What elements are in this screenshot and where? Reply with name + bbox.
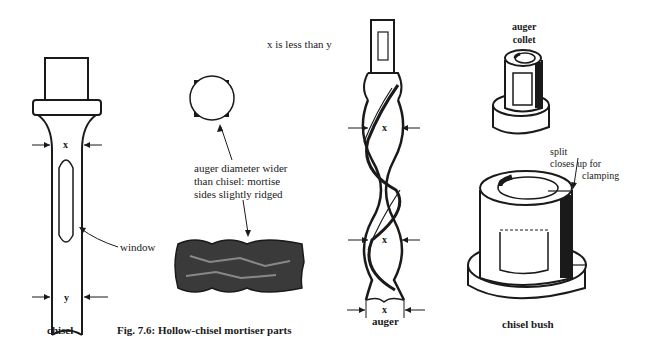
auger-dim-x-2: x — [382, 234, 387, 246]
x-less-than-y-note: x is less than y — [267, 38, 332, 50]
chisel-bush-label: chisel bush — [502, 318, 554, 330]
figure-caption: Fig. 7.6: Hollow-chisel mortiser parts — [117, 324, 292, 336]
split-line-1: split — [550, 146, 619, 158]
chisel-dim-y: y — [64, 292, 69, 304]
split-line-3: clamping — [550, 170, 619, 182]
auger-dim-x-1: x — [382, 122, 387, 134]
window-label: window — [120, 241, 155, 253]
split-line-2: closes up for — [550, 158, 619, 170]
annotation-line-2: than chisel: mortise — [194, 175, 324, 188]
annotation-line-3: sides slightly ridged — [194, 188, 324, 201]
auger-diameter-annotation: auger diameter wider than chisel: mortis… — [194, 162, 324, 201]
auger-collet-label: auger collet — [512, 20, 536, 46]
split-annotation: split closes up for clamping — [550, 146, 619, 182]
collet-label-line-2: collet — [512, 33, 536, 46]
collet-label-line-1: auger — [512, 20, 536, 33]
auger-drawing — [347, 20, 425, 318]
chisel-label: chisel — [47, 324, 73, 336]
chisel-dim-x: x — [63, 139, 68, 151]
auger-label: auger — [372, 315, 399, 327]
chisel-drawing — [32, 58, 118, 335]
annotation-line-1: auger diameter wider — [194, 162, 324, 175]
auger-collet-drawing — [493, 50, 549, 134]
